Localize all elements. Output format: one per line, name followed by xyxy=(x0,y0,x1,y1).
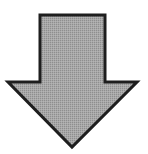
arrow-down-icon xyxy=(0,0,148,154)
down-arrow-shape xyxy=(8,15,137,147)
diagram-canvas xyxy=(0,0,148,154)
